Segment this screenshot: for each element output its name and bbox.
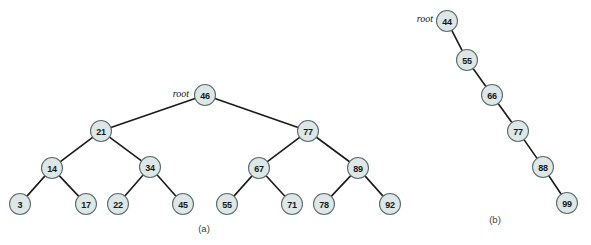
tree-node-value: 44: [442, 17, 452, 27]
tree-edge: [331, 176, 351, 197]
tree-node-value: 55: [462, 56, 472, 66]
tree-edge: [266, 176, 285, 197]
tree-edge: [157, 175, 176, 196]
tree-node-value: 55: [222, 200, 232, 210]
tree-edge: [60, 137, 92, 161]
tree-edge: [125, 175, 143, 196]
tree-node[interactable]: 71: [282, 194, 303, 215]
tree-node-value: 89: [353, 164, 363, 174]
tree-node-value: 67: [254, 164, 264, 174]
tree-node[interactable]: 22: [108, 194, 129, 215]
tree-node[interactable]: 55: [217, 194, 238, 215]
tree-edge: [109, 137, 141, 161]
tree-node-value: 22: [113, 200, 123, 210]
tree-node-value: 71: [287, 200, 297, 210]
tree-node-value: 14: [47, 164, 57, 174]
root-pointer-label: root: [417, 13, 434, 24]
tree-node[interactable]: 14: [42, 158, 63, 179]
tree-node-value: 88: [538, 163, 548, 173]
panel-caption: (b): [489, 214, 501, 225]
tree-node[interactable]: 88: [533, 157, 554, 178]
tree-node-value: 46: [200, 91, 210, 101]
tree-node-value: 99: [562, 199, 572, 209]
root-pointer-label: root: [173, 88, 190, 99]
tree-edge: [59, 176, 79, 197]
tree-diagram-canvas: 4621771434678931722455571789244556677889…: [0, 0, 591, 245]
tree-node[interactable]: 78: [314, 194, 335, 215]
tree-node-value: 77: [303, 127, 313, 137]
tree-node[interactable]: 55: [457, 50, 478, 71]
tree-node-value: 66: [487, 91, 497, 101]
binary-search-tree-figure: 4621771434678931722455571789244556677889…: [0, 0, 591, 245]
tree-node-value: 21: [96, 127, 106, 137]
tree-edge: [267, 137, 299, 161]
tree-edge: [473, 69, 486, 87]
tree-node[interactable]: 21: [91, 121, 112, 142]
tree-edge: [452, 30, 462, 50]
tree-node[interactable]: 77: [508, 121, 529, 142]
tree-node-value: 78: [319, 200, 329, 210]
tree-edge: [365, 176, 383, 196]
tree-edge: [316, 137, 349, 162]
tree-node[interactable]: 46: [195, 85, 216, 106]
panel-caption: (a): [198, 223, 210, 234]
tree-node[interactable]: 89: [348, 158, 369, 179]
tree-node[interactable]: 99: [557, 193, 578, 214]
tree-node[interactable]: 92: [380, 194, 401, 215]
tree-node-value: 17: [81, 200, 91, 210]
tree-edge: [498, 104, 512, 123]
tree-node-value: 3: [18, 200, 23, 210]
tree-edge: [215, 98, 298, 127]
tree-node-value: 45: [178, 200, 188, 210]
tree-node[interactable]: 34: [140, 157, 161, 178]
tree-edge: [27, 176, 45, 196]
tree-edge: [549, 176, 561, 195]
tree-node-value: 92: [385, 200, 395, 210]
tree-node[interactable]: 66: [482, 85, 503, 106]
edges-layer: [27, 30, 561, 196]
tree-node-value: 77: [513, 127, 523, 137]
tree-node[interactable]: 3: [10, 194, 31, 215]
tree-edge: [524, 140, 537, 159]
tree-node[interactable]: 67: [249, 158, 270, 179]
tree-edge: [111, 98, 195, 127]
tree-node-value: 34: [145, 163, 155, 173]
tree-node[interactable]: 17: [76, 194, 97, 215]
tree-node[interactable]: 45: [173, 194, 194, 215]
tree-edge: [234, 176, 252, 196]
tree-node[interactable]: 44: [437, 11, 458, 32]
nodes-layer: 4621771434678931722455571789244556677889…: [10, 11, 578, 215]
tree-node[interactable]: 77: [298, 121, 319, 142]
